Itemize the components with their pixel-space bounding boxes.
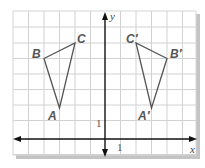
vertex-label-b-prime: B′ [170,47,183,61]
vertex-label-a: A [47,109,57,123]
vertex-label-c: C [77,32,86,46]
y-axis-label: y [109,10,115,22]
vertex-label-b: B [32,47,41,61]
vertex-label-c-prime: C′ [126,32,139,46]
x-axis-label: x [189,143,195,155]
coordinate-plane: y x 1 1 A B C A′ B′ C′ [0,0,205,168]
x-tick-label: 1 [117,141,123,153]
y-tick-label: 1 [96,117,102,129]
vertex-label-a-prime: A′ [137,109,151,123]
